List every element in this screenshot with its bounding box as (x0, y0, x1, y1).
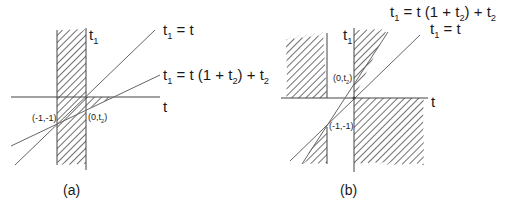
axis-label-t: t (431, 93, 435, 110)
caption-b: (b) (340, 182, 357, 198)
line-label-t1-eq-t: t1 = t (163, 21, 194, 41)
axis-label-t1: t1 (89, 26, 98, 46)
hatched-region-upper-right (354, 29, 386, 98)
point-label-neg1-neg1: (-1,-1) (32, 113, 57, 123)
line-label-t1-eq-formula: t1 = t (1 + t2) + t2 (163, 66, 269, 86)
axis-label-t1: t1 (343, 26, 352, 46)
point-label-0-t2: (0,t2) (88, 112, 107, 124)
point-label-neg1-neg1: (-1,-1) (329, 121, 354, 131)
axis-label-t: t (163, 98, 167, 115)
hatched-region-upper-left (286, 32, 327, 98)
point-label-0-t2: (0,t2) (333, 73, 352, 85)
hatched-region-lower-right (354, 98, 424, 165)
panel-b (281, 28, 428, 172)
panel-a (11, 28, 160, 170)
line-label-t1-eq-t: t1 = t (430, 20, 461, 40)
caption-a: (a) (63, 182, 80, 198)
